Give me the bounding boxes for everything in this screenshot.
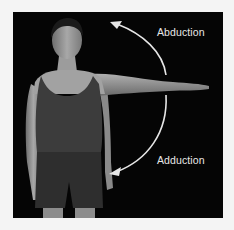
person-illustration xyxy=(13,12,223,218)
shorts xyxy=(35,152,103,208)
abduction-label: Abduction xyxy=(157,26,205,38)
adduction-label: Adduction xyxy=(157,154,205,166)
photo-frame: Abduction Adduction xyxy=(13,12,223,218)
raised-arm xyxy=(89,74,209,96)
